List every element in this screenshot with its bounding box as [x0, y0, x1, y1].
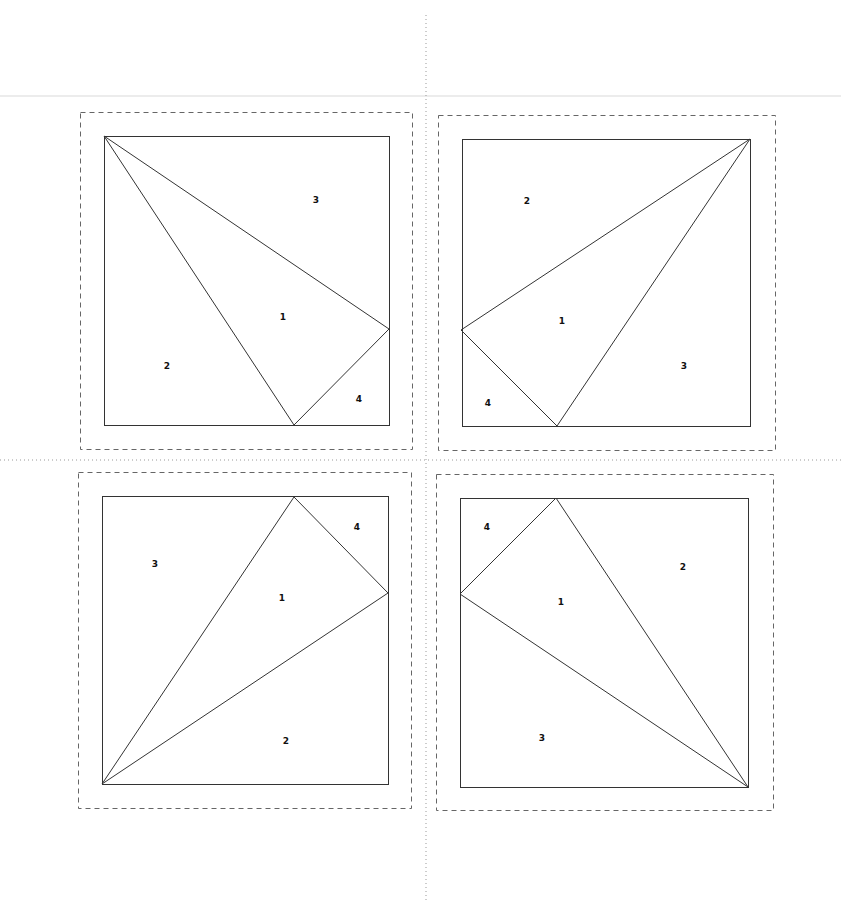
sewing-line [294, 329, 389, 425]
block-outline [463, 140, 751, 427]
block-outline [461, 499, 749, 788]
piece-number-label: 2 [164, 361, 170, 371]
sewing-line [460, 498, 556, 594]
block-top-right: 2134 [439, 116, 776, 451]
sewing-line [294, 497, 388, 593]
piece-number-label: 1 [280, 312, 286, 322]
piece-number-label: 4 [354, 522, 360, 532]
piece-number-label: 2 [680, 562, 686, 572]
piece-number-label: 1 [559, 316, 565, 326]
quilt-blocks: 3124213443124213 [79, 113, 776, 811]
sewing-line [460, 594, 748, 787]
sewing-line [556, 498, 748, 787]
block-outline [105, 137, 390, 426]
cut-guides [0, 15, 841, 903]
seam-allowance-outline [81, 113, 413, 450]
piece-number-label: 1 [279, 593, 285, 603]
piece-number-label: 3 [539, 733, 545, 743]
piece-number-label: 3 [152, 559, 158, 569]
piece-number-label: 4 [484, 522, 490, 532]
piece-number-label: 3 [681, 361, 687, 371]
block-outline [103, 497, 389, 785]
piece-number-label: 4 [485, 398, 491, 408]
sewing-line [461, 330, 557, 426]
foundation-paper-piecing-diagram: 3124213443124213 [0, 0, 841, 905]
sewing-line [102, 497, 294, 784]
piece-number-label: 1 [558, 597, 564, 607]
sewing-line [557, 139, 750, 426]
piece-number-label: 4 [356, 394, 362, 404]
piece-number-label: 2 [524, 196, 530, 206]
sewing-line [102, 593, 388, 784]
piece-number-label: 3 [313, 195, 319, 205]
seam-allowance-outline [79, 473, 412, 809]
block-top-left: 3124 [81, 113, 413, 450]
sewing-line [461, 139, 750, 330]
sewing-line [104, 136, 389, 329]
block-bottom-left: 4312 [79, 473, 412, 809]
block-bottom-right: 4213 [437, 475, 774, 811]
sewing-line [104, 136, 294, 425]
piece-number-label: 2 [283, 736, 289, 746]
